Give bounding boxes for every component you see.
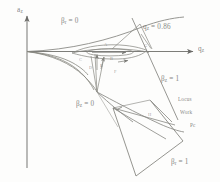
arrow-lower-right [118, 61, 128, 63]
locus-line-a [113, 108, 175, 125]
stability-locus-figure: az qz βr = 0 qz = 0.86 βz = 1 βz = 0 βr … [0, 0, 220, 182]
point-marker-g: G [144, 44, 147, 48]
point-marker-f: F [114, 70, 117, 74]
origin-fan-curves [27, 52, 97, 93]
label-locus-line-3: Pc [190, 123, 196, 128]
label-qz-value: qz = 0.86 [143, 24, 171, 31]
point-marker-h: H [148, 113, 151, 117]
diagram-canvas [0, 0, 220, 182]
axis-label-horizontal: qz [198, 46, 204, 53]
point-marker-e: E [100, 64, 103, 68]
axis-label-vertical: az [17, 7, 23, 14]
label-locus-line-1: Locus [178, 97, 192, 102]
locus-leader [151, 101, 172, 122]
point-marker-d: D [89, 66, 92, 70]
label-beta-z-one: βz = 1 [161, 76, 179, 83]
point-marker-c: C [79, 58, 82, 62]
point-marker-b: B [110, 57, 113, 61]
label-beta-r-one: βr = 1 [171, 159, 189, 166]
label-locus-line-2: Work [180, 110, 192, 115]
label-beta-r-zero: βr = 0 [61, 18, 79, 25]
axis-group [27, 16, 193, 168]
point-marker-a: A [104, 43, 107, 47]
label-beta-z-zero: βz = 0 [76, 101, 94, 108]
fan-curve-1 [27, 52, 97, 93]
